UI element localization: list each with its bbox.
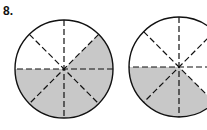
shaded-sector — [179, 67, 207, 117]
shaded-sector — [64, 34, 113, 69]
fraction-circle-2 — [129, 17, 207, 117]
fraction-circles-figure — [0, 0, 207, 130]
fraction-circle-1 — [15, 20, 113, 118]
